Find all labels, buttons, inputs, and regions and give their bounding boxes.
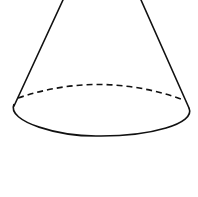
cone-right-edge [141,0,189,108]
cone-base-visible-front-arc [13,104,190,136]
cone-left-edge [14,0,63,106]
cone-base-hidden-back-arc [18,84,184,100]
cone-diagram [0,0,198,197]
